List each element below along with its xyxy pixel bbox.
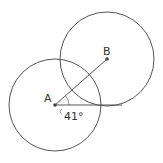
angle-label: 41° (64, 110, 84, 123)
label-a: A (44, 92, 52, 105)
geometry-diagram: A B 41° (0, 0, 163, 163)
angle-arc (66, 96, 70, 105)
label-b: B (103, 45, 111, 58)
label-leader (60, 109, 62, 114)
point-a (53, 103, 57, 107)
